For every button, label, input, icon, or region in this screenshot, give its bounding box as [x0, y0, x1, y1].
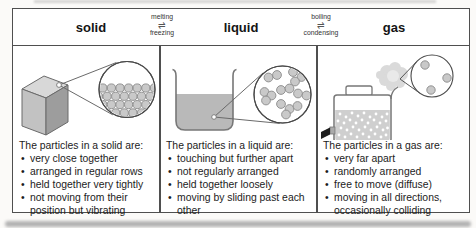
canister-lid	[346, 86, 372, 96]
solid-diagram	[13, 46, 160, 140]
solid-title: solid	[76, 20, 106, 35]
gas-description: The particles in a gas are: very far apa…	[323, 139, 469, 217]
zoom-origin-dot	[57, 83, 62, 88]
liquid-description-heading: The particles in a liquid are:	[166, 139, 315, 152]
states-of-matter-diagram: solid liquid gas melting ⇌ freezing boil…	[0, 0, 476, 228]
freezing-label: freezing	[150, 29, 174, 38]
liquid-bullet: touching but further apart	[166, 152, 315, 165]
liquid-bullet: moving by sliding past each other	[166, 191, 315, 217]
scan-artifact-bottom	[5, 221, 471, 227]
gas-bullet: free to move (diffuse)	[323, 178, 469, 191]
solid-bullet: arranged in regular rows	[19, 165, 158, 178]
liquid-description: The particles in a liquid are: touching …	[166, 139, 315, 217]
liquid-title: liquid	[224, 20, 259, 35]
equilibrium-arrow-icon: ⇌	[150, 22, 174, 29]
beaker-liquid	[176, 94, 233, 130]
canister-contents	[335, 110, 390, 140]
equilibrium-arrow-icon: ⇌	[304, 22, 339, 29]
gas-bullet: moving in all directions, occasionally c…	[323, 191, 469, 217]
transition-boiling-condensing: boiling ⇌ condensing	[304, 13, 339, 37]
gas-description-heading: The particles in a gas are:	[323, 139, 469, 152]
gas-title: gas	[383, 20, 405, 35]
condensing-label: condensing	[304, 29, 339, 38]
gas-puff	[376, 62, 408, 91]
solid-description-heading: The particles in a solid are:	[19, 139, 158, 152]
liquid-bullet: not regularly arranged	[166, 165, 315, 178]
liquid-diagram	[160, 46, 317, 140]
gas-bullet: very far apart	[323, 152, 469, 165]
scan-artifact-top	[34, 0, 436, 3]
canister-tap	[321, 127, 335, 139]
liquid-bullet: held together loosely	[166, 178, 315, 191]
solid-bullet: held together very tightly	[19, 178, 158, 191]
gas-bullet: randomly arranged	[323, 165, 469, 178]
solid-description: The particles in a solid are: very close…	[19, 139, 158, 217]
zoom-origin-dot	[212, 115, 217, 120]
transition-melting-freezing: melting ⇌ freezing	[150, 13, 174, 37]
solid-bullet: not moving from their position but vibra…	[19, 191, 158, 217]
gas-diagram	[317, 46, 471, 140]
solid-bullet: very close together	[19, 152, 158, 165]
diagram-table: solid liquid gas melting ⇌ freezing boil…	[12, 8, 470, 213]
